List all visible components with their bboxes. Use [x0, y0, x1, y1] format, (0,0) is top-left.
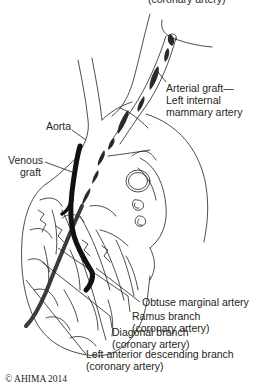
leader-venous-graft: [45, 162, 72, 172]
label-line: Arterial graft—: [166, 82, 242, 94]
label-line: mammary artery: [166, 106, 242, 118]
label-line: Ramus branch: [132, 310, 210, 322]
label-line: (coronary artery): [86, 360, 234, 372]
aorta-outline: [76, 60, 88, 158]
copyright-notice: © AHIMA 2014: [5, 374, 67, 384]
label-left-anterior-descending-branch: Left anterior descending branch (coronar…: [86, 348, 234, 372]
label-obtuse-marginal-artery: Obtuse marginal artery: [142, 296, 249, 308]
pulmonary-vein-ring: [126, 170, 150, 192]
label-arterial-graft: Arterial graft— Left internal mammary ar…: [166, 82, 242, 118]
label-aorta: Aorta: [46, 120, 71, 132]
leader-aorta: [72, 130, 86, 140]
label-venous-graft: Venous graft: [8, 154, 43, 178]
label-line: Diagonal branch: [112, 326, 190, 338]
label-line: Left internal: [166, 94, 242, 106]
label-line: Aorta: [46, 120, 71, 132]
pericardium-outline: [146, 114, 208, 242]
label-line: graft: [8, 166, 43, 178]
label-line: Obtuse marginal artery: [142, 296, 249, 308]
label-line: Venous: [8, 154, 43, 166]
label-line: Left anterior descending branch: [86, 348, 234, 360]
label-diagonal-branch: Diagonal branch (coronary artery): [112, 326, 190, 350]
leader-obtuse-marginal: [96, 268, 140, 302]
leader-arterial-graft: [158, 72, 166, 82]
